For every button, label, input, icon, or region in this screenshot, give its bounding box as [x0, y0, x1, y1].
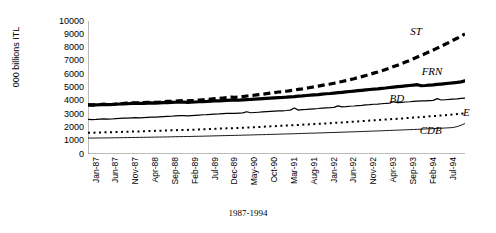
series-annotation-st: ST: [410, 26, 422, 37]
x-tick-label: Jul-89: [211, 157, 220, 180]
series-annotation-cdb: CDB: [420, 125, 442, 136]
x-tick-label: May-90: [250, 157, 259, 185]
x-tick-label: Feb-89: [191, 157, 200, 184]
y-tick-label: 3000: [42, 110, 84, 119]
x-tick-label: Apr-93: [389, 157, 398, 183]
y-tick-label: 1000: [42, 136, 84, 145]
x-tick-label: Jul-94: [449, 157, 458, 180]
x-axis-title: 1987-1994: [0, 208, 496, 218]
series-line-st: [88, 34, 465, 105]
y-axis-title: 000 billions ITL: [11, 0, 21, 117]
y-tick-label: 9000: [42, 30, 84, 39]
series-lines: [88, 21, 465, 154]
x-tick-label: Nov-92: [369, 157, 378, 184]
y-tick-label: 0: [42, 150, 84, 159]
x-tick-label: Apr-88: [151, 157, 160, 183]
y-tick-label: 4000: [42, 96, 84, 105]
y-tick-label: 10000: [42, 17, 84, 26]
y-tick-label: 7000: [42, 56, 84, 65]
x-tick-label: Dec-89: [230, 157, 239, 184]
x-tick-label: Mar-91: [290, 157, 299, 184]
plot-area: [88, 21, 465, 154]
x-tick-label: Jan-92: [330, 157, 339, 183]
series-annotation-frn: FRN: [422, 66, 443, 77]
chart-figure: 000 billions ITL 10000900080007000600050…: [0, 0, 496, 233]
x-tick-label: Jun-92: [349, 157, 358, 183]
x-tick-label: Sep-93: [409, 157, 418, 184]
x-tick-label: Nov-87: [131, 157, 140, 184]
x-axis-tick-labels: Jan-87Jun-87Nov-87Apr-88Sep-88Feb-89Jul-…: [88, 157, 468, 209]
y-tick-label: 8000: [42, 43, 84, 52]
x-tick-label: Jan-87: [92, 157, 101, 183]
y-tick-label: 5000: [42, 83, 84, 92]
x-tick-label: Oct-90: [270, 157, 279, 183]
series-annotation-bd: BD: [390, 93, 405, 104]
y-tick-label: 6000: [42, 70, 84, 79]
x-tick-label: Aug-91: [310, 157, 319, 184]
x-tick-label: Jun-87: [111, 157, 120, 183]
x-tick-label: Sep-88: [171, 157, 180, 184]
series-annotation-e: E: [463, 107, 470, 118]
y-axis-tick-labels: 1000090008000700060005000400030002000100…: [40, 0, 84, 233]
y-tick-label: 2000: [42, 123, 84, 132]
x-tick-label: Feb-94: [429, 157, 438, 184]
